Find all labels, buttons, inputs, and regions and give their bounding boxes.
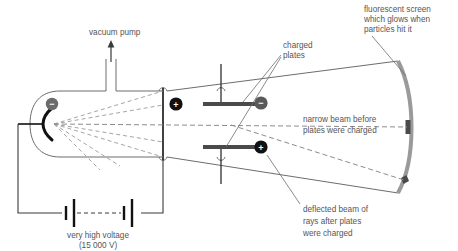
voltage-label-line1: very high voltage: [67, 231, 129, 240]
vacuum-pump-label: vacuum pump: [89, 28, 141, 37]
narrow-beam-label-line2: plates were charged: [303, 126, 377, 135]
top-plate-minus-sign: −: [258, 98, 263, 108]
top-plate-bar: [203, 102, 259, 106]
beam-fan-ray-3: [54, 124, 163, 142]
bottom-plate-plus-sign: +: [258, 143, 263, 153]
deflected-beam-leader: [267, 155, 300, 204]
cathode-ray-tube-diagram: vacuum pump − + −: [0, 0, 458, 251]
charged-plates-label-group: charged plates: [226, 41, 313, 147]
vacuum-pump-arrowhead: [108, 40, 115, 48]
cone-bottom-edge: [167, 157, 398, 193]
fluorescent-screen-label-line2: which glows when: [363, 15, 430, 24]
cone-top-edge: [167, 61, 398, 91]
deflected-beam-label-line3: were charged: [302, 229, 353, 238]
anode-plus-sign: +: [173, 100, 178, 110]
deflected-beam-label-line2: rays after plates: [303, 217, 361, 226]
anode-group: +: [159, 88, 183, 161]
bottom-plate-bar: [203, 145, 259, 149]
circuit-anode-wire: [141, 160, 163, 213]
beam-fan-group: [54, 91, 163, 170]
vacuum-pump-group: vacuum pump: [89, 28, 141, 91]
deflected-beam-label-line1: deflected beam of: [303, 205, 369, 214]
charged-plates-label-line2: plates: [283, 51, 305, 60]
deflected-beam-label-group: deflected beam of rays after plates were…: [267, 155, 369, 238]
fluorescent-screen-label-group: fluorescent screen which glows when part…: [363, 5, 431, 76]
high-voltage-circuit-group: very high voltage (15 000 V): [18, 124, 163, 250]
voltage-label-line2: (15 000 V): [79, 241, 118, 250]
cathode-electrode: [43, 108, 52, 140]
charged-plates-label-line1: charged: [283, 41, 313, 50]
cathode-minus-sign: −: [49, 99, 54, 109]
circuit-cathode-wire: [18, 124, 62, 213]
narrow-beam-label-line1: narrow beam before: [303, 115, 377, 124]
beam-fan-ray-5: [54, 124, 120, 166]
fluorescent-screen-label-line1: fluorescent screen: [364, 5, 431, 14]
fluorescent-screen-leader: [372, 36, 406, 76]
diagram-canvas: vacuum pump − + −: [0, 0, 458, 251]
fluorescent-screen-label-line3: particles hit it: [364, 25, 413, 34]
narrow-beam-label-group: narrow beam before plates were charged: [303, 115, 377, 135]
cathode-group: −: [18, 98, 58, 140]
charged-plates-leader-top: [243, 55, 281, 102]
